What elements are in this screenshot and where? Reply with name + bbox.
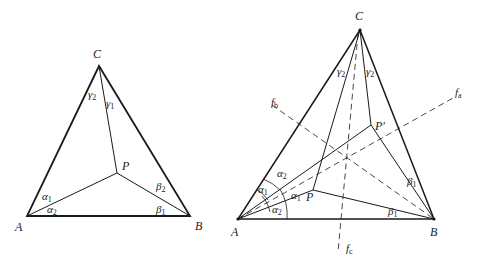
vertex-c-label-right: C bbox=[355, 9, 364, 23]
angle-beta2-left: β2 bbox=[155, 180, 165, 194]
segment-p-prime-a bbox=[238, 125, 371, 219]
angle-beta1-left: β1 bbox=[155, 203, 165, 217]
angle-beta1-upper: β1 bbox=[406, 175, 416, 189]
angle-alpha1-left: α1 bbox=[42, 190, 52, 204]
angle-gamma2-right-side: γ2 bbox=[366, 65, 374, 79]
vertex-c-dot bbox=[358, 28, 361, 31]
segment-pb-right bbox=[313, 190, 434, 219]
angle-gamma2-left: γ2 bbox=[88, 88, 96, 102]
point-p-label-right: P bbox=[305, 190, 314, 204]
label-fa: fa bbox=[455, 86, 462, 100]
angle-alpha2-left: α2 bbox=[47, 203, 57, 217]
vertex-b-label-right: B bbox=[430, 225, 438, 239]
angle-gamma2-left-side: γ2 bbox=[337, 65, 345, 79]
label-fb: fb bbox=[271, 96, 278, 110]
vertex-b-dot bbox=[432, 217, 435, 220]
angle-alpha2-upper: α2 bbox=[277, 167, 287, 181]
vertex-a-dot bbox=[236, 217, 239, 220]
label-fc: fc bbox=[346, 242, 353, 256]
angle-alpha2-lower: α2 bbox=[272, 203, 282, 217]
segment-pb-left bbox=[117, 173, 190, 216]
segment-pa-left bbox=[27, 173, 117, 216]
left-figure: C A B P γ2 γ1 α1 α2 β2 β1 bbox=[14, 47, 203, 234]
angle-alpha1-upper: α1 bbox=[258, 183, 268, 197]
point-p-label-left: P bbox=[121, 159, 130, 173]
right-figure: C A B P P′ fb fa fc γ2 γ2 α2 α1 α1 α2 β1… bbox=[230, 9, 462, 256]
angle-alpha1-lower: α1 bbox=[291, 189, 301, 203]
diagram-canvas: C A B P γ2 γ1 α1 α2 β2 β1 C A bbox=[0, 0, 482, 272]
vertex-c-label-left: C bbox=[93, 47, 102, 61]
angle-beta1-lower: β1 bbox=[387, 205, 397, 219]
point-p-prime-label: P′ bbox=[374, 119, 385, 133]
triangle-abc-left bbox=[27, 66, 190, 216]
vertex-b-label-left: B bbox=[195, 219, 203, 233]
segment-pc-right bbox=[313, 30, 360, 190]
bisector-fa bbox=[238, 98, 453, 219]
vertex-a-label-left: A bbox=[14, 220, 23, 234]
vertex-a-label-right: A bbox=[230, 225, 239, 239]
angle-gamma1-left: γ1 bbox=[106, 97, 114, 111]
